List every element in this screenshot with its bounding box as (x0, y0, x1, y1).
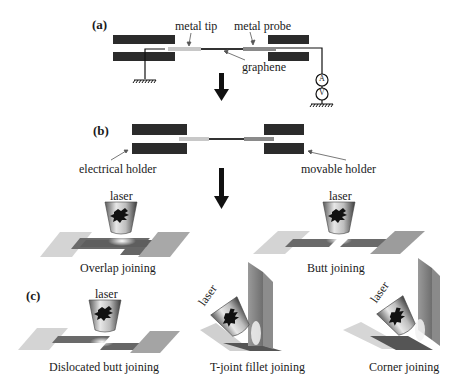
laser-label-overlap: laser (110, 190, 133, 202)
metal-probe-label: metal probe (234, 20, 291, 32)
panel-b-diagram (111, 124, 346, 160)
graphene-label: graphene (242, 61, 286, 73)
arrow-b-to-c-icon (214, 168, 229, 209)
voltmeter-label: V (319, 89, 325, 97)
butt-joint-illustration (253, 202, 425, 254)
right-holder-top (268, 35, 309, 44)
left-holder-bottom (113, 52, 175, 61)
joint-label-butt: Butt joining (307, 262, 365, 274)
dislocated-butt-joint-illustration (18, 300, 180, 353)
t-joint-fillet-illustration (200, 262, 282, 351)
overlap-joint-illustration (40, 202, 190, 257)
joint-label-overlap: Overlap joining (80, 262, 156, 274)
metal-tip-label: metal tip (175, 20, 217, 32)
ammeter-label: A (319, 75, 325, 83)
movable-holder-label: movable holder (301, 163, 376, 175)
arrow-a-to-b-icon (214, 73, 229, 101)
panel-a-label: (a) (92, 18, 107, 31)
laser-label-butt: laser (329, 190, 352, 202)
joint-label-corner: Corner joining (369, 361, 439, 373)
panel-c-label: (c) (26, 289, 40, 302)
laser-label-dislocated: laser (95, 288, 118, 300)
ground-icon (310, 104, 333, 107)
metal-tip (168, 47, 201, 51)
panel-b-label: (b) (93, 124, 109, 137)
electrical-holder-label: electrical holder (79, 163, 157, 175)
graphene (201, 48, 244, 50)
left-holder-top (113, 35, 175, 44)
joint-label-dislocated: Dislocated butt joining (49, 361, 159, 373)
ground-icon (133, 80, 156, 83)
metal-probe (243, 47, 276, 51)
joint-label-tjoint: T-joint fillet joining (210, 361, 305, 373)
